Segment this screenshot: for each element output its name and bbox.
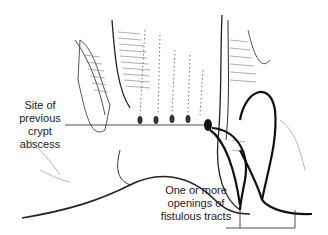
label-line: One or more	[146, 184, 246, 197]
crypt-abscess-label: Site of previous crypt abscess	[12, 99, 68, 151]
label-line: previous	[12, 112, 68, 125]
label-line: fistulous tracts	[146, 210, 246, 223]
label-line: Site of	[12, 99, 68, 112]
label-line: openings of	[146, 197, 246, 210]
fistula-openings-label: One or more openings of fistulous tracts	[146, 184, 246, 223]
label-line: crypt	[12, 125, 68, 138]
label-line: abscess	[12, 138, 68, 151]
